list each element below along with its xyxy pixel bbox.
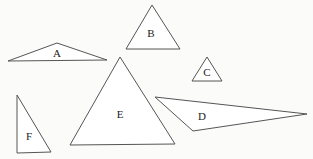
triangle-f: F <box>17 95 51 153</box>
triangle-diagram: A B C D E F <box>0 0 313 159</box>
triangle-c: C <box>192 57 222 81</box>
triangle-d-label: D <box>198 110 206 122</box>
triangle-b-label: B <box>147 27 154 39</box>
triangle-d-shape <box>155 97 307 131</box>
triangle-c-label: C <box>203 66 210 78</box>
triangle-a-label: A <box>53 47 61 59</box>
triangle-f-shape <box>17 95 51 153</box>
triangle-b: B <box>126 5 180 49</box>
triangle-d: D <box>155 97 307 131</box>
triangle-f-label: F <box>26 130 32 142</box>
triangle-a: A <box>8 43 107 61</box>
triangle-e-label: E <box>117 108 124 120</box>
